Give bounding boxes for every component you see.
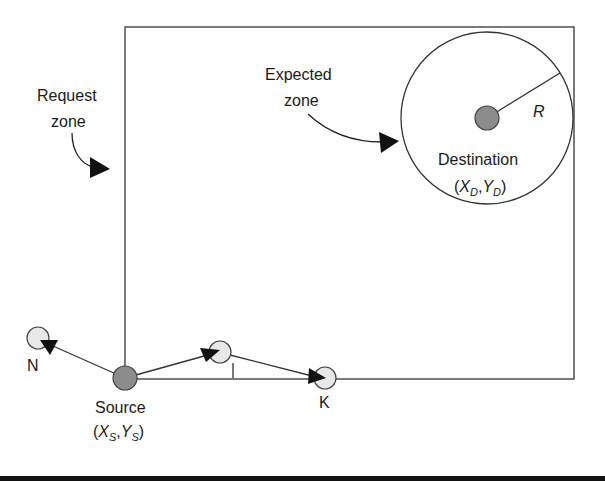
- expected-zone-pointer-arrow: [308, 114, 382, 142]
- edge-i-to-k: [222, 353, 320, 378]
- source-coordinates: (XS,YS): [93, 423, 144, 443]
- source-node: [113, 366, 137, 390]
- bottom-border-bar: [0, 476, 605, 481]
- diagram-canvas: Request zone Expected zone R Destination…: [0, 0, 605, 481]
- edge-source-to-n: [44, 342, 125, 378]
- request-zone-label-line1: Request: [37, 87, 97, 104]
- expected-zone-label-line2: zone: [284, 92, 319, 109]
- request-zone-arrowhead-icon: [90, 157, 110, 178]
- radius-label: R: [533, 103, 545, 120]
- edge-source-to-i: [125, 353, 215, 378]
- request-zone-label-line2: zone: [51, 113, 86, 130]
- source-label: Source: [95, 399, 146, 416]
- destination-coordinates: (XD,YD): [454, 178, 506, 198]
- expected-zone-arrowhead-icon: [379, 132, 399, 153]
- radius-line: [487, 73, 560, 118]
- destination-label: Destination: [438, 151, 518, 168]
- node-k-label: K: [319, 394, 330, 411]
- node-n-label: N: [27, 357, 39, 374]
- expected-zone-label-line1: Expected: [265, 66, 332, 83]
- request-zone-rectangle: [125, 27, 574, 379]
- destination-node: [475, 106, 499, 130]
